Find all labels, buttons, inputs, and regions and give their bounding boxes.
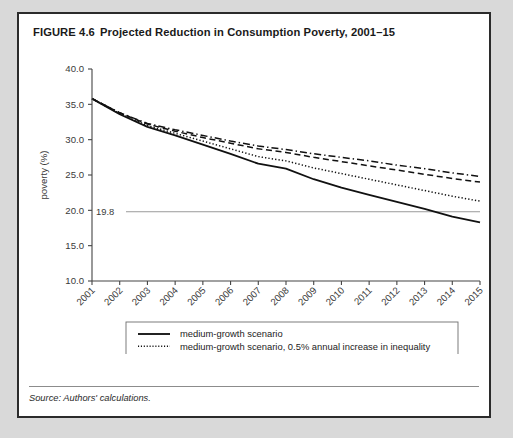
y-tick-label: 35.0 [65, 99, 84, 110]
reference-line-label: 19.8 [96, 206, 114, 217]
y-tick-label: 40.0 [65, 63, 84, 74]
x-tick-label: 2004 [157, 284, 180, 307]
chart-legend: medium-growth scenariomedium-growth scen… [126, 322, 458, 354]
x-axis-ticks: 2001200220032004200520062007200820092010… [74, 281, 485, 308]
x-tick-label: 2008 [268, 285, 291, 308]
x-tick-label: 2005 [185, 285, 208, 308]
x-tick-label: 2010 [323, 285, 346, 308]
x-tick-label: 2003 [129, 285, 152, 308]
y-tick-label: 10.0 [65, 275, 84, 286]
x-tick-label: 2009 [296, 285, 319, 308]
x-tick-label: 2011 [352, 285, 374, 307]
y-tick-label: 20.0 [65, 205, 84, 216]
figure-container: FIGURE 4.6Projected Reduction in Consump… [17, 12, 491, 418]
legend-label-0: medium-growth scenario [180, 328, 283, 339]
x-tick-label: 2013 [407, 285, 430, 308]
x-tick-label: 2006 [213, 285, 236, 308]
x-tick-label: 2015 [462, 285, 485, 308]
poverty-projection-line-chart: 40.035.030.025.020.015.010.0 20012002200… [19, 34, 489, 354]
legend-label-2: medium-growth scenario, 1.0% annual incr… [180, 353, 430, 354]
series-group [92, 99, 480, 223]
y-tick-label: 15.0 [65, 240, 84, 251]
y-tick-label: 30.0 [65, 134, 84, 145]
y-axis-title: poverty (%) [38, 150, 49, 199]
y-tick-label: 25.0 [65, 169, 84, 180]
legend-label-1: medium-growth scenario, 0.5% annual incr… [180, 341, 430, 352]
x-tick-label: 2012 [379, 285, 402, 308]
series-line-3 [92, 99, 480, 177]
y-axis-ticks: 40.035.030.025.020.015.010.0 [65, 63, 92, 286]
x-tick-label: 2002 [102, 285, 125, 308]
x-tick-label: 2001 [74, 285, 97, 308]
x-tick-label: 2007 [240, 285, 263, 308]
x-tick-label: 2014 [434, 284, 457, 307]
chart-plot-area: 40.035.030.025.020.015.010.0 20012002200… [19, 34, 489, 354]
source-note: Source: Authors' calculations. [29, 393, 151, 403]
source-divider [29, 386, 479, 387]
